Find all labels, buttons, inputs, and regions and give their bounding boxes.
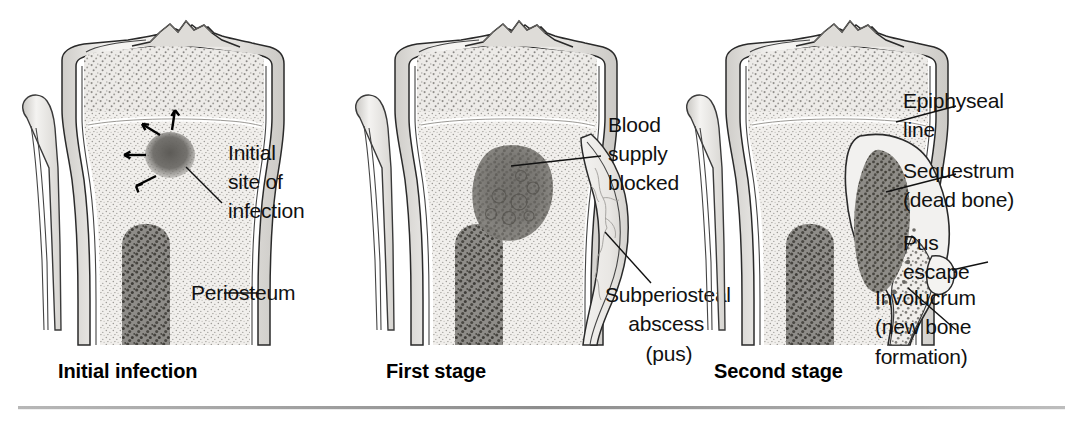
label-blood-supply-blocked: Blood supply blocked	[608, 113, 679, 194]
label-periosteum: Periosteum	[191, 281, 295, 304]
initial-infection-focus	[145, 132, 195, 178]
label-initial-site-of-infection: Initial site of infection	[228, 141, 304, 222]
panel-first-stage: Blood supply blocked Subperiosteal absce…	[356, 21, 737, 382]
label-subperiosteal-abscess: Subperiosteal abscess (pus)	[605, 283, 736, 365]
panel-second-stage: Epiphyseal line Sequestrum (dead bone) P…	[687, 21, 1020, 382]
panel-initial-infection: Initial site of infection Periosteum Ini…	[23, 21, 305, 382]
marrow-cavity	[122, 224, 170, 345]
label-involucrum: Involucrum (new bone formation)	[875, 286, 981, 368]
subperiosteal-abscess	[581, 134, 628, 345]
figure-canvas: Initial site of infection Periosteum Ini…	[0, 0, 1065, 422]
bottom-divider-rule	[18, 406, 1065, 409]
osteomyelitis-figure: Initial site of infection Periosteum Ini…	[0, 0, 1065, 422]
marrow-cavity	[786, 224, 834, 345]
caption-second-stage: Second stage	[714, 360, 843, 382]
caption-first-stage: First stage	[386, 360, 486, 382]
caption-initial-infection: Initial infection	[58, 360, 197, 382]
marrow-cavity	[455, 224, 503, 345]
